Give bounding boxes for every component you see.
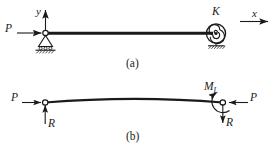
beam-b: [45, 99, 223, 103]
ground-hatching-a-left: [36, 50, 56, 53]
label-axis-x: x: [252, 8, 257, 19]
panel-a-drawing: [17, 10, 268, 53]
label-load-p-b-right: P: [250, 92, 257, 104]
label-axis-y: y: [36, 6, 41, 17]
label-moment-subscript: L: [214, 86, 218, 95]
label-moment-ml: ML: [204, 81, 218, 95]
caption-panel-b: (b): [126, 131, 139, 143]
label-load-p-a: P: [5, 23, 12, 35]
label-moment-m-char: M: [204, 80, 214, 92]
label-reaction-r-left: R: [48, 118, 55, 130]
label-load-p-b-left: P: [11, 92, 18, 104]
figure-container: y x K P (a) P P R R ML (b): [0, 0, 273, 149]
panel-b-drawing: [22, 93, 248, 125]
hinge-node-left-b: [43, 100, 48, 105]
caption-panel-a: (a): [126, 58, 139, 70]
ground-hatching-a-right: [208, 46, 225, 49]
label-spring-stiffness-k: K: [212, 6, 220, 18]
pin-support-a: [39, 36, 53, 50]
label-reaction-r-right: R: [226, 117, 233, 129]
